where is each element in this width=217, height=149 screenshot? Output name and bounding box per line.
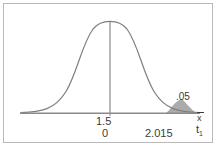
tail-area-label: .05 xyxy=(176,92,190,102)
mean-value-label: 1.5 xyxy=(96,116,111,127)
standardized-mean-label: 0 xyxy=(102,128,108,139)
distribution-figure: 1.5 0 2.015 .05 x t1 xyxy=(0,0,217,149)
x-bar-axis-label: x xyxy=(197,112,204,123)
x-bar-letter: x xyxy=(197,113,202,123)
t-subscript: 1 xyxy=(199,130,203,137)
critical-value-label: 2.015 xyxy=(145,128,173,139)
t-statistic-axis-label: t1 xyxy=(196,124,203,137)
